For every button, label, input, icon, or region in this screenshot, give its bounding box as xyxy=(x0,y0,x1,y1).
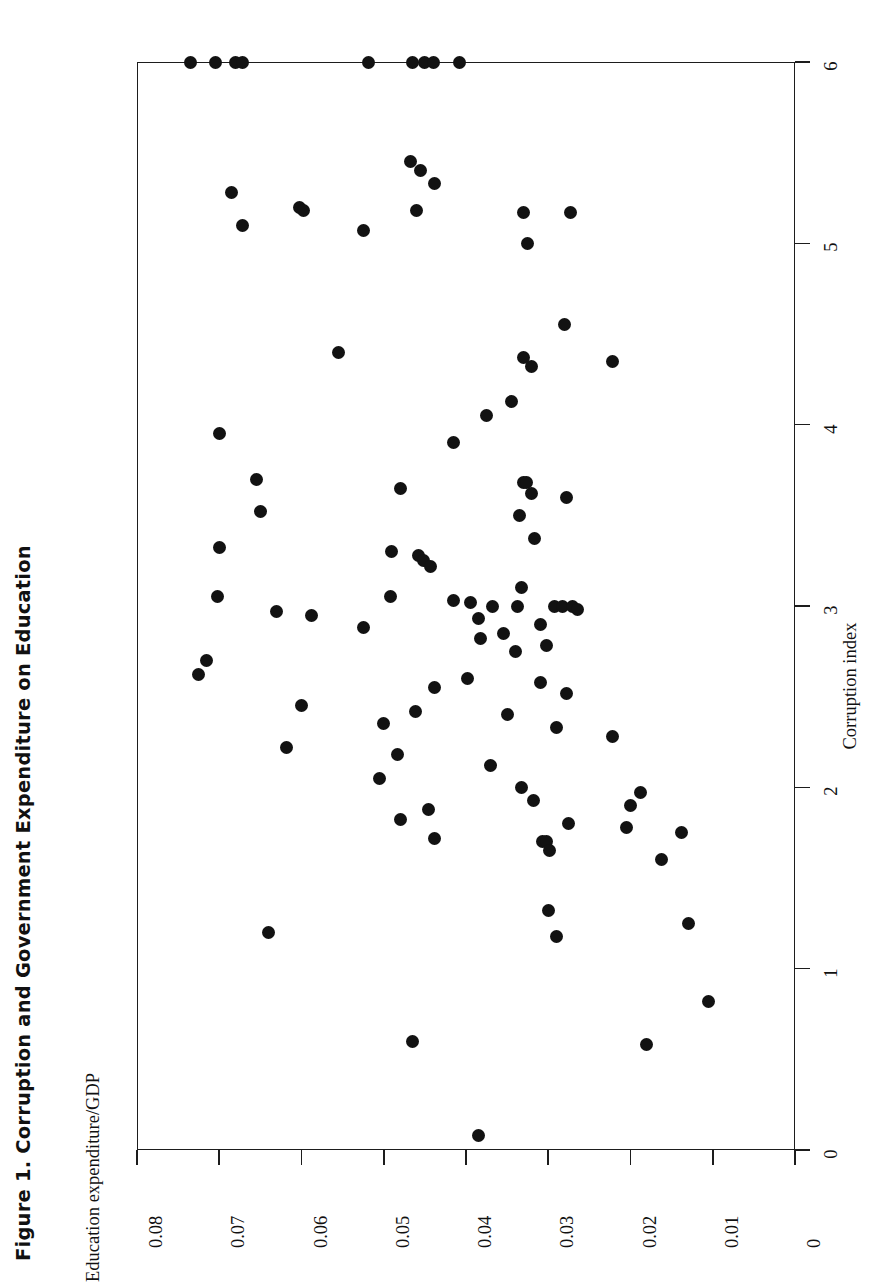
y-axis-tick-label: 0.08 xyxy=(146,1172,166,1248)
y-axis-tick-label: 0.04 xyxy=(475,1172,495,1248)
x-axis-tick xyxy=(795,61,810,63)
x-axis-tick xyxy=(795,605,810,607)
y-axis-tick xyxy=(383,1150,385,1165)
y-axis-tick xyxy=(136,1150,138,1165)
x-axis-tick-label: 2 xyxy=(820,776,842,806)
y-axis-tick-label: 0.07 xyxy=(228,1172,248,1248)
x-axis-tick xyxy=(795,424,810,426)
y-axis-tick xyxy=(794,1150,796,1165)
y-axis-tick-label: 0.02 xyxy=(640,1172,660,1248)
y-axis-tick xyxy=(301,1150,303,1165)
x-axis-tick xyxy=(795,1149,810,1151)
y-axis-tick xyxy=(218,1150,220,1165)
x-axis-tick-label: 5 xyxy=(820,232,842,262)
x-axis-tick-label: 4 xyxy=(820,414,842,444)
y-axis-title: Education expenditure/GDP xyxy=(78,962,108,1282)
y-axis-tick-label: 0.06 xyxy=(311,1172,331,1248)
y-axis-tick-label: 0 xyxy=(804,1172,824,1248)
y-axis-tick-label: 0.05 xyxy=(393,1172,413,1248)
y-axis-tick-label: 0.01 xyxy=(722,1172,742,1248)
x-axis-tick-label: 0 xyxy=(820,1139,842,1169)
x-axis-tick xyxy=(795,787,810,789)
x-axis-tick xyxy=(795,968,810,970)
x-axis-tick-label: 1 xyxy=(820,958,842,988)
y-axis-tick xyxy=(630,1150,632,1165)
x-axis-tick xyxy=(795,243,810,245)
y-axis-tick xyxy=(547,1150,549,1165)
x-axis-tick-label: 6 xyxy=(820,51,842,81)
y-axis-tick xyxy=(465,1150,467,1165)
figure-title: Figure 1. Corruption and Government Expe… xyxy=(0,0,46,1279)
plot-area xyxy=(137,62,795,1150)
y-axis-tick-label: 0.03 xyxy=(557,1172,577,1248)
x-axis-tick-label: 3 xyxy=(820,595,842,625)
y-axis-tick xyxy=(712,1150,714,1165)
